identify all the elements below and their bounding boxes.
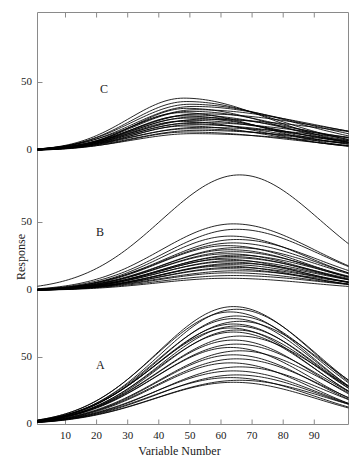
- x-tick-label: 20: [85, 429, 109, 441]
- response-curve: [38, 224, 349, 289]
- x-axis-title: Variable Number: [0, 444, 359, 459]
- panel-label-c: C: [100, 82, 108, 97]
- x-tick-label: 90: [302, 429, 326, 441]
- y-tick-label: 50: [6, 75, 32, 87]
- y-tick-label: 0: [6, 283, 32, 295]
- y-tick-label: 0: [6, 417, 32, 429]
- x-tick-label: 70: [240, 429, 264, 441]
- x-tick-label: 60: [209, 429, 233, 441]
- x-tick-label: 50: [178, 429, 202, 441]
- y-tick-label: 50: [6, 350, 32, 362]
- x-tick-label: 80: [271, 429, 295, 441]
- panel-label-a: A: [96, 358, 105, 373]
- x-tick-label: 30: [116, 429, 140, 441]
- curve-bundles: [38, 98, 349, 422]
- figure-root: 102030405060708090050050050CBA Response …: [0, 0, 359, 464]
- x-tick-label: 10: [53, 429, 77, 441]
- panel-label-b: B: [96, 225, 104, 240]
- y-tick-label: 50: [6, 215, 32, 227]
- y-axis-title: Response: [14, 234, 29, 280]
- response-curve: [38, 307, 349, 421]
- response-curve: [38, 321, 349, 420]
- x-tick-label: 40: [147, 429, 171, 441]
- chart-canvas: [0, 0, 359, 464]
- y-tick-label: 0: [6, 143, 32, 155]
- response-curve: [38, 332, 349, 421]
